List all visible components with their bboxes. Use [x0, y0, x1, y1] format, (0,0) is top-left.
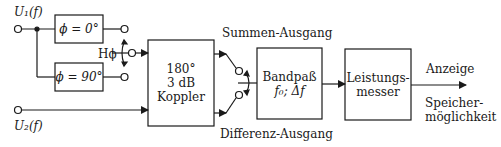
u1-label: U₁(f): [14, 6, 43, 19]
coupler-block: 180° 3 dB Koppler: [148, 40, 214, 126]
storage-label-2: möglichkeit: [425, 111, 496, 124]
powermeter-line-1: Leistungs-: [346, 71, 409, 85]
coupler-line-3: Koppler: [157, 90, 205, 104]
display-label: Anzeige: [426, 63, 474, 76]
phase-0-label: ϕ = 0°: [59, 22, 99, 36]
phase-90-label: ϕ = 90°: [55, 70, 102, 84]
phase-switch-label: Hϕ: [98, 48, 117, 61]
sum-output-label: Summen-Ausgang: [222, 27, 332, 40]
bandpass-line-1: Bandpaß: [262, 70, 316, 84]
storage-label-1: Speicher-: [425, 97, 483, 110]
phase-90-block: ϕ = 90°: [55, 63, 103, 91]
diff-output-label: Differenz-Ausgang: [220, 128, 333, 141]
coupler-line-1: 180°: [167, 62, 196, 76]
phase-0-block: ϕ = 0°: [55, 15, 103, 43]
powermeter-block: Leistungs- messer: [345, 49, 411, 120]
coupler-line-2: 3 dB: [167, 76, 195, 90]
bandpass-block: Bandpaß f₀; Δf: [257, 48, 322, 119]
u2-label: U₂(f): [14, 120, 43, 133]
powermeter-line-2: messer: [356, 85, 400, 99]
bandpass-line-2: f₀; Δf: [274, 84, 304, 98]
